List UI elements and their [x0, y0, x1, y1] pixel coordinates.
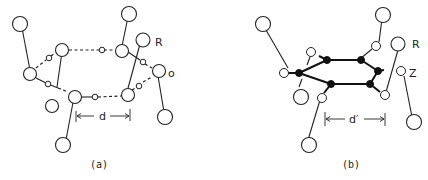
atom-small: [136, 83, 142, 89]
panel-a: R o d (a): [13, 7, 176, 171]
atom-r: [46, 100, 59, 113]
atom-r: [158, 110, 173, 125]
atom-r: [391, 37, 405, 51]
atom-r: [56, 138, 71, 153]
label-r: R: [412, 38, 420, 51]
ring-atom: [328, 81, 335, 88]
bond: [404, 76, 412, 117]
atom: [24, 68, 37, 81]
bond: [308, 100, 320, 140]
ring-atom: [375, 68, 382, 75]
bond: [158, 76, 164, 112]
ring-atom: [296, 70, 303, 77]
bond: [57, 52, 62, 87]
hydrogen-bond: [51, 53, 55, 56]
bond: [128, 52, 140, 60]
bond: [307, 57, 310, 65]
atom-small: [92, 94, 98, 100]
atom-r: [376, 8, 391, 23]
label-distance-d: d: [99, 110, 106, 123]
atom: [56, 44, 69, 57]
caption-b: (b): [342, 159, 360, 170]
atom-r: [13, 17, 28, 32]
ring-bond: [299, 60, 327, 73]
atom-r: [256, 17, 271, 32]
atom-small: [45, 81, 51, 87]
panel-b: R Z d′ (b): [256, 8, 422, 171]
label-z: Z: [409, 67, 417, 80]
atom-r: [302, 138, 317, 153]
ring-atom: [358, 57, 365, 64]
ring-atom: [324, 57, 331, 64]
label-r: R: [155, 36, 163, 49]
label-o: o: [168, 67, 175, 80]
atom-small: [99, 47, 105, 53]
atom: [69, 91, 82, 104]
caption-a: (a): [90, 159, 108, 170]
bond: [266, 30, 288, 68]
atom: [153, 65, 166, 78]
bond: [22, 28, 30, 70]
hydrogen-bond: [58, 88, 68, 92]
atom: [381, 91, 390, 100]
atom: [122, 89, 135, 102]
atom-r: [294, 90, 309, 105]
bond: [299, 79, 302, 87]
atom: [372, 42, 381, 51]
atom: [318, 94, 327, 103]
atom-z: [397, 67, 406, 76]
atom: [280, 69, 289, 78]
atom: [116, 45, 129, 58]
atom-r: [122, 7, 137, 22]
atom-small: [46, 55, 52, 61]
ring-atom: [367, 81, 374, 88]
atom-r: [136, 33, 150, 47]
hydrogen-bond: [143, 77, 152, 82]
atom-r: [407, 115, 422, 130]
hydrogen-bond: [98, 96, 121, 97]
ring-bond: [299, 73, 331, 84]
atom-small: [140, 59, 146, 65]
hydrogen-bond: [145, 64, 152, 68]
diagram-canvas: R o d (a): [0, 0, 428, 180]
label-distance-d-prime: d′: [349, 113, 359, 126]
atom: [307, 48, 316, 57]
hydrogen-bond: [36, 60, 46, 68]
